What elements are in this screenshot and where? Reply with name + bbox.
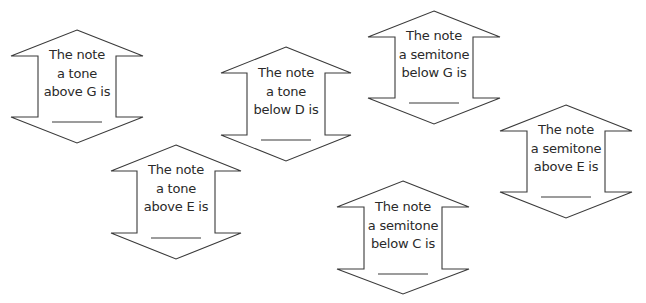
prompt-line: a semitone <box>394 46 474 65</box>
prompt-line: a semitone <box>363 217 443 236</box>
prompt-line: above G is <box>37 83 117 102</box>
prompt-line: The note <box>394 27 474 46</box>
prompt-line: The note <box>136 161 216 180</box>
prompt-line: above E is <box>526 158 606 177</box>
card-tone-above-e: The note a tone above E is <box>136 161 216 217</box>
prompt-line: below C is <box>363 235 443 254</box>
prompt-line: a tone <box>136 180 216 199</box>
card-semitone-above-e: The note a semitone above E is <box>526 121 606 177</box>
prompt-line: a tone <box>37 65 117 84</box>
prompt-line: a tone <box>246 83 326 102</box>
prompt-line: The note <box>246 64 326 83</box>
prompt-line: The note <box>37 46 117 65</box>
prompt-line: The note <box>526 121 606 140</box>
card-tone-above-g: The note a tone above G is <box>37 46 117 102</box>
prompt-line: below G is <box>394 64 474 83</box>
worksheet-canvas: The note a tone above G is The note a to… <box>0 0 646 303</box>
card-semitone-below-c: The note a semitone below C is <box>363 198 443 254</box>
card-semitone-below-g: The note a semitone below G is <box>394 27 474 83</box>
prompt-line: below D is <box>246 101 326 120</box>
card-tone-below-d: The note a tone below D is <box>246 64 326 120</box>
prompt-line: The note <box>363 198 443 217</box>
prompt-line: a semitone <box>526 140 606 159</box>
prompt-line: above E is <box>136 198 216 217</box>
